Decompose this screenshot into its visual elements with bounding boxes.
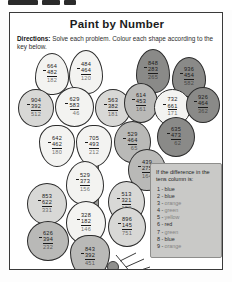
subtrahend: 622 <box>42 199 52 205</box>
subtrahend: 464 <box>198 100 208 106</box>
key-row: 6 - red <box>157 221 221 228</box>
problem-p17: 853 622 331 <box>42 193 52 213</box>
subtrahend: 382 <box>108 103 118 109</box>
key-number: 9 - <box>157 243 163 250</box>
difference: 582 <box>184 80 194 86</box>
key-color: orange <box>165 200 182 206</box>
key-number: 6 - <box>157 221 163 228</box>
difference: 362 <box>198 108 208 114</box>
petal-p8[interactable]: 614 453 161 <box>124 83 158 123</box>
problem-p8: 614 453 161 <box>136 92 146 112</box>
subtrahend: 392 <box>85 252 95 258</box>
problem-p21: 626 394 232 <box>43 230 53 250</box>
painter-person <box>106 262 120 271</box>
key-number: 2 - <box>157 193 163 200</box>
difference: 62 <box>171 140 181 146</box>
subtrahend: 182 <box>81 218 91 224</box>
key-number: 3 - <box>157 200 163 207</box>
color-key-box: If the difference in the tens column is:… <box>150 163 222 258</box>
problem-p7: 563 382 181 <box>108 97 118 117</box>
top-mark-3 <box>64 0 76 5</box>
key-color: blue <box>165 236 175 242</box>
problem-p13: 529 464 65 <box>128 131 138 151</box>
key-row: 9 - orange <box>157 243 221 250</box>
petal-p10[interactable]: 926 464 362 <box>186 87 220 123</box>
subtrahend: 283 <box>148 66 158 72</box>
petal-p21[interactable]: 626 394 232 <box>27 221 69 261</box>
key-list: 1 - blue 2 - blue 3 - orange 4 - green 5… <box>157 186 221 250</box>
key-color: blue <box>165 186 175 192</box>
key-row: 7 - green <box>157 229 221 236</box>
problem-p3: 848 283 265 <box>148 60 158 80</box>
subtrahend: 394 <box>43 236 53 242</box>
difference: 265 <box>148 74 158 80</box>
page-top-marks <box>0 0 232 10</box>
petal-p5[interactable]: 904 392 512 <box>18 89 54 127</box>
subtrahend: 454 <box>184 72 194 78</box>
subtrahend: 392 <box>31 103 41 109</box>
difference: 512 <box>31 111 41 117</box>
problem-p12: 705 493 212 <box>89 135 99 155</box>
difference: 331 <box>42 207 52 213</box>
problem-p14: 635 473 62 <box>171 126 181 146</box>
key-color: blue <box>165 193 175 199</box>
problem-p16: 529 373 156 <box>80 172 90 192</box>
key-color: green <box>165 229 179 235</box>
difference: 171 <box>168 110 178 116</box>
key-color: yellow <box>165 214 180 220</box>
difference: 65 <box>128 145 138 151</box>
subtrahend: 661 <box>168 103 178 109</box>
problem-p10: 926 464 362 <box>198 94 208 114</box>
key-number: 5 - <box>157 214 163 221</box>
top-mark-2 <box>42 0 60 5</box>
difference: 156 <box>80 186 90 192</box>
key-color: orange <box>165 243 182 249</box>
key-number: 7 - <box>157 229 163 236</box>
petal-p16[interactable]: 529 373 156 <box>66 161 104 205</box>
petal-p11[interactable]: 642 462 180 <box>39 125 75 167</box>
subtrahend: 464 <box>81 67 91 73</box>
directions-label: Directions: <box>17 35 50 42</box>
difference: 232 <box>43 244 53 250</box>
subtrahend: 462 <box>52 141 62 147</box>
petal-p22[interactable]: 843 392 451 <box>70 235 110 270</box>
subtrahend: 453 <box>136 98 146 104</box>
top-mark-1 <box>8 0 38 5</box>
subtrahend: 373 <box>80 178 90 184</box>
difference: 182 <box>47 77 57 83</box>
key-number: 4 - <box>157 207 163 214</box>
subtrahend: 482 <box>47 69 57 75</box>
problem-p6: 629 583 46 <box>70 96 80 116</box>
difference: 212 <box>89 149 99 155</box>
key-number: 8 - <box>157 236 163 243</box>
problem-p19: 328 182 146 <box>81 212 91 232</box>
difference: 120 <box>81 75 91 81</box>
subtrahend: 321 <box>122 197 132 203</box>
difference: 451 <box>85 260 95 266</box>
difference: 180 <box>52 149 62 155</box>
worksheet-page: Paint by Number Directions: Solve each p… <box>0 0 232 282</box>
page-title: Paint by Number <box>10 18 223 30</box>
problem-p22: 843 392 451 <box>85 246 95 266</box>
petal-p17[interactable]: 853 622 331 <box>27 183 67 225</box>
key-color: red <box>165 221 173 227</box>
petal-p14[interactable]: 635 473 62 <box>157 117 195 157</box>
problem-p5: 904 392 512 <box>31 97 41 117</box>
subtrahend: 493 <box>89 141 99 147</box>
worksheet-border: Paint by Number Directions: Solve each p… <box>9 12 223 270</box>
petal-p6[interactable]: 629 583 46 <box>55 87 94 127</box>
subtrahend: 583 <box>70 102 80 108</box>
problem-p20: 896 145 751 <box>122 216 132 236</box>
subtrahend: 464 <box>128 137 138 143</box>
key-number: 1 - <box>157 186 163 193</box>
subtrahend: 145 <box>122 222 132 228</box>
problem-p9: 732 661 171 <box>168 96 178 116</box>
problem-p11: 642 462 180 <box>52 135 62 155</box>
difference: 46 <box>70 110 80 116</box>
key-row: 8 - blue <box>157 236 221 243</box>
subtrahend: 473 <box>171 132 181 138</box>
petal-p20[interactable]: 896 145 751 <box>108 207 146 247</box>
difference: 181 <box>108 111 118 117</box>
problem-p4: 936 454 582 <box>184 66 194 86</box>
problem-p2: 484 464 120 <box>81 61 91 81</box>
